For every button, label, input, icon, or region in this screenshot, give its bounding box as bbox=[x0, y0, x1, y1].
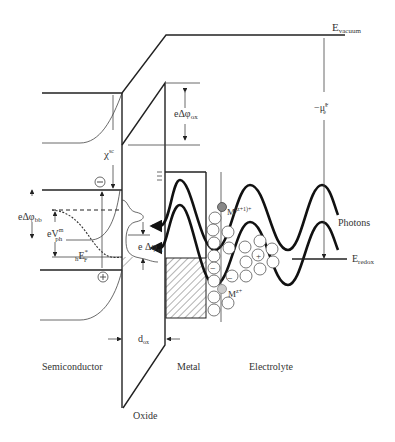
surface-states-curve bbox=[122, 200, 158, 262]
vacuum-level bbox=[42, 35, 345, 93]
e-delta-phi-ox-label: eΔφox bbox=[174, 108, 198, 121]
e-redox-label: Eredox bbox=[352, 253, 375, 266]
region-metal: Metal bbox=[177, 361, 201, 372]
e-delta-phi-ss-label: e Δφss bbox=[138, 241, 163, 254]
svg-text:−: − bbox=[210, 263, 216, 274]
region-oxide: Oxide bbox=[133, 410, 158, 421]
d-ox-label: dox bbox=[138, 333, 149, 345]
electron-symbol bbox=[95, 177, 105, 187]
region-semiconductor: Semiconductor bbox=[42, 361, 103, 372]
svg-text:−: − bbox=[227, 273, 233, 284]
h-ef-label: hE*F bbox=[75, 248, 89, 263]
m-z1-ion bbox=[218, 203, 227, 212]
chi-sc-label: χsc bbox=[103, 148, 114, 160]
semiconductor-cb-curve bbox=[42, 93, 122, 143]
m-z-label: Mz+ bbox=[228, 288, 243, 299]
e-v-ph-label: eVmph bbox=[47, 227, 64, 243]
e-vacuum-label: Evacuum bbox=[332, 21, 361, 35]
hole-symbol bbox=[98, 272, 108, 282]
mu-e-label: −μ̃se bbox=[314, 102, 329, 115]
m-z1-label: M(z+1)+ bbox=[227, 206, 252, 217]
m-z-ion bbox=[218, 285, 227, 294]
photons-label: Photons bbox=[338, 217, 370, 228]
e-delta-phi-bb-label: eΔφbb bbox=[18, 211, 42, 224]
region-electrolyte: Electrolyte bbox=[249, 361, 293, 372]
electrolyte-ions: − − + bbox=[207, 203, 279, 317]
band-diagram: − − + Evacuum −μ̃se eΔφox χsc eΔφbb eVmp… bbox=[0, 0, 395, 442]
svg-text:+: + bbox=[256, 251, 261, 261]
